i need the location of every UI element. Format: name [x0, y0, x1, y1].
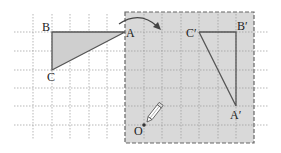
label-c-prime: C′ [186, 26, 197, 40]
label-a-prime: A′ [230, 108, 242, 122]
label-a: A [126, 26, 135, 40]
label-b: B [42, 20, 50, 34]
label-b-prime: B′ [237, 19, 248, 33]
label-c: C [47, 70, 55, 84]
point-o [142, 123, 146, 127]
rotation-diagram: B A C C′ B′ A′ O [0, 0, 281, 153]
label-o: O [134, 124, 143, 138]
